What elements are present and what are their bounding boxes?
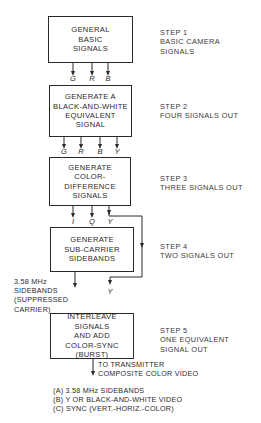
step-2-title: STEP 2 <box>160 102 238 111</box>
step-3-line-1: THREE SIGNALS OUT <box>160 183 243 192</box>
box-1-line-1: GENERAL <box>71 25 109 34</box>
step-2-label: STEP 2 FOUR SIGNALS OUT <box>160 102 238 121</box>
step-4-label: STEP 4 TWO SIGNALS OUT <box>160 242 234 261</box>
step-4-line-1: TWO SIGNALS OUT <box>160 251 234 260</box>
box-5-line-4: COLOR-SYNC <box>65 341 119 350</box>
signal-label-q: Q <box>89 217 95 226</box>
step-3-title: STEP 3 <box>160 174 243 183</box>
box-2-line-1: GENERATE A <box>65 92 116 101</box>
sidebands-note: 3.58 MHz SIDEBANDS (SUPPRESSED CARRIER) <box>14 277 68 314</box>
signal-label-r: R <box>78 147 83 156</box>
step-5-label: STEP 5 ONE EQUIVALENT SIGNAL OUT <box>160 326 229 354</box>
signal-label-y-bypass: Y <box>107 287 112 296</box>
box-generate-color-difference: GENERATE COLOR- DIFFERENCE SIGNALS <box>49 157 131 206</box>
box-2-line-2: BLACK-AND-WHITE <box>53 102 128 111</box>
step-5-line-1: ONE EQUIVALENT <box>160 335 229 344</box>
step-3-label: STEP 3 THREE SIGNALS OUT <box>160 174 243 193</box>
step-1-line-2: SIGNALS <box>160 47 220 56</box>
output-note-line-1: TO TRANSMITTER <box>98 360 198 369</box>
step-5-line-2: SIGNAL OUT <box>160 345 229 354</box>
legend: (A) 3.58 MHz SIDEBANDS (B) Y OR BLACK-AN… <box>53 386 182 414</box>
step-2-line-1: FOUR SIGNALS OUT <box>160 111 238 120</box>
step-1-title: STEP 1 <box>160 28 220 37</box>
box-3-line-3: DIFFERENCE <box>64 182 116 191</box>
step-1-label: STEP 1 BASIC CAMERA SIGNALS <box>160 28 220 56</box>
box-3-line-1: GENERATE <box>68 163 112 172</box>
sidebands-note-line-4: CARRIER) <box>14 305 68 314</box>
signal-label-y: Y <box>114 147 119 156</box>
signal-label-y: Y <box>107 217 112 226</box>
box-3-line-4: SIGNALS <box>72 191 107 200</box>
signal-label-i: I <box>72 217 74 226</box>
step-4-title: STEP 4 <box>160 242 234 251</box>
sidebands-note-line-1: 3.58 MHz <box>14 277 68 286</box>
box-1-line-3: SIGNALS <box>73 44 108 53</box>
box-5-line-2: SIGNALS <box>74 322 109 331</box>
output-note: TO TRANSMITTER COMPOSITE COLOR VIDEO <box>98 360 198 378</box>
legend-item-b: (B) Y OR BLACK-AND-WHITE VIDEO <box>53 395 182 404</box>
box-2-line-3: EQUIVALENT <box>65 111 116 120</box>
box-4-line-2: SUB-CARRIER <box>64 245 120 254</box>
box-interleave-signals: INTERLEAVE SIGNALS AND ADD COLOR-SYNC (B… <box>50 313 134 359</box>
box-5-line-3: AND ADD <box>74 331 110 340</box>
signal-label-g: G <box>61 147 67 156</box>
box-3-line-2: COLOR- <box>74 172 105 181</box>
box-4-line-1: GENERATE <box>70 235 114 244</box>
step-5-title: STEP 5 <box>160 326 229 335</box>
signal-label-g: G <box>70 74 76 83</box>
box-1-line-2: BASIC <box>78 35 102 44</box>
box-generate-sub-carrier: GENERATE SUB-CARRIER SIDEBANDS <box>50 227 134 272</box>
box-2-line-4: SIGNAL <box>76 120 106 129</box>
legend-item-a: (A) 3.58 MHz SIDEBANDS <box>53 386 182 395</box>
signal-label-b: B <box>105 74 110 83</box>
signal-label-r: R <box>89 74 94 83</box>
sidebands-note-line-3: (SUPPRESSED <box>14 295 68 304</box>
box-4-line-3: SIDEBANDS <box>69 254 116 263</box>
step-1-line-1: BASIC CAMERA <box>160 37 220 46</box>
box-general-basic-signals: GENERAL BASIC SIGNALS <box>48 16 133 63</box>
sidebands-note-line-2: SIDEBANDS <box>14 286 68 295</box>
legend-item-c: (C) SYNC (VERT.-HORIZ.-COLOR) <box>53 404 182 413</box>
output-note-line-2: COMPOSITE COLOR VIDEO <box>98 369 198 378</box>
box-generate-bw-signal: GENERATE A BLACK-AND-WHITE EQUIVALENT SI… <box>49 85 132 137</box>
box-5-line-1: INTERLEAVE <box>67 312 117 321</box>
signal-label-b: B <box>97 147 102 156</box>
box-5-line-5: (BURST) <box>76 350 109 359</box>
